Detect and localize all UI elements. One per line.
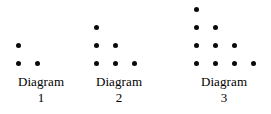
dot-pattern-figure: Diagram 1 Diagram 2 Diagram 3 bbox=[0, 0, 271, 114]
diagram-2-caption: Diagram 2 bbox=[78, 74, 160, 106]
diagram-1-caption-number: 1 bbox=[0, 90, 82, 106]
diagram-3-caption: Diagram 3 bbox=[178, 74, 270, 106]
diagram-2-caption-group: Diagram 2 bbox=[78, 0, 160, 114]
diagram-1-caption-group: Diagram 1 bbox=[0, 0, 82, 114]
diagram-1-caption-word: Diagram bbox=[0, 74, 82, 90]
diagram-2-caption-number: 2 bbox=[78, 90, 160, 106]
diagram-2-caption-word: Diagram bbox=[78, 74, 160, 90]
diagram-3-caption-group: Diagram 3 bbox=[178, 0, 270, 114]
diagram-3-caption-number: 3 bbox=[178, 90, 270, 106]
diagram-3-caption-word: Diagram bbox=[178, 74, 270, 90]
diagram-1-caption: Diagram 1 bbox=[0, 74, 82, 106]
